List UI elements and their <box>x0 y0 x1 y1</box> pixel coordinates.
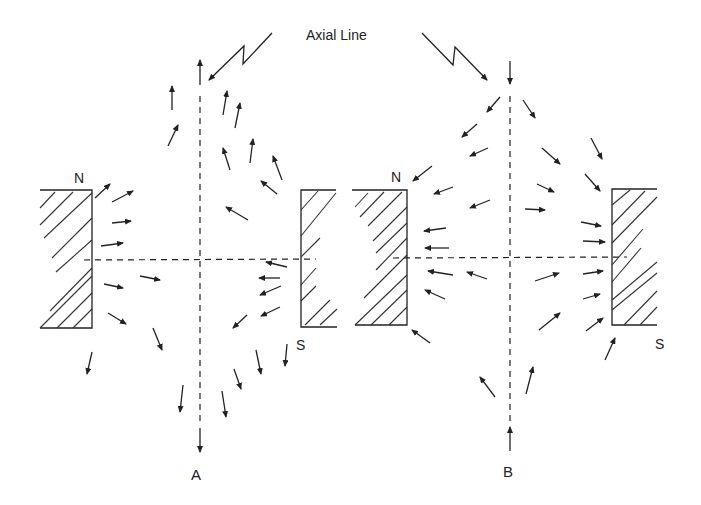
field-arrow-icon <box>226 207 248 220</box>
field-arrow-icon <box>535 273 559 281</box>
field-arrow-icon <box>523 100 535 118</box>
axial-line-leader-b-icon <box>422 33 487 80</box>
field-arrow-icon <box>425 290 445 299</box>
field-arrow-icon <box>480 377 495 397</box>
field-arrow-icon <box>583 241 605 242</box>
field-arrow-icon <box>223 91 227 115</box>
field-arrow-icon <box>250 139 253 163</box>
field-arrow-icon <box>542 148 560 164</box>
field-arrow-icon <box>266 262 287 267</box>
magnet-a-north <box>40 190 92 328</box>
field-arrow-icon <box>428 271 453 275</box>
field-arrow-icon <box>591 138 602 159</box>
field-arrow-icon <box>233 315 247 328</box>
field-arrow-icon <box>234 369 241 389</box>
magnetic-field-diagram: Axial Line N <box>0 0 701 505</box>
field-arrow-icon <box>605 338 615 360</box>
field-arrow-icon <box>412 330 430 343</box>
field-arrow-icon <box>470 200 490 208</box>
field-arrow-icon <box>104 284 123 288</box>
field-arrow-icon <box>539 313 560 330</box>
field-arrow-icon <box>140 276 160 280</box>
field-arrow-icon <box>180 385 183 412</box>
field-arrow-icon <box>526 367 533 394</box>
field-arrow-icon <box>222 391 226 417</box>
horizontal-b-dashed-line <box>393 257 627 258</box>
field-arrow-icon <box>108 313 126 324</box>
field-arrow-icon <box>424 228 446 231</box>
field-arrow-icon <box>112 221 131 223</box>
field-arrow-icon <box>467 272 487 279</box>
magnet-b-south <box>612 189 657 325</box>
field-arrow-icon <box>537 184 554 192</box>
field-arrow-icon <box>583 294 600 299</box>
field-arrow-icon <box>586 318 603 331</box>
field-arrow-icon <box>583 271 603 274</box>
field-arrow-icon <box>153 328 162 350</box>
label-b-north: N <box>391 169 401 185</box>
field-arrow-icon <box>261 307 280 316</box>
horizontal-a-dashed-line <box>84 259 316 260</box>
field-arrow-icon <box>235 103 240 128</box>
field-arrow-icon <box>285 344 287 366</box>
field-arrow-icon <box>87 352 92 374</box>
label-a-north: N <box>74 170 84 186</box>
field-arrows-b <box>412 97 615 397</box>
label-b-south: S <box>655 336 664 352</box>
panel-b: N S B <box>352 61 664 480</box>
field-arrow-icon <box>413 166 432 181</box>
field-arrow-icon <box>95 184 110 198</box>
field-arrow-icon <box>470 148 488 156</box>
field-arrows-a <box>87 86 287 417</box>
label-a-south: S <box>296 337 305 353</box>
label-panel-b: B <box>503 463 513 480</box>
field-arrow-icon <box>273 156 282 180</box>
axial-line-label: Axial Line <box>306 27 367 43</box>
field-arrow-icon <box>223 148 230 170</box>
axial-line-leader-a-icon <box>209 33 272 80</box>
label-panel-a: A <box>191 466 201 483</box>
panel-a: N S A <box>40 60 337 483</box>
field-arrow-icon <box>585 174 600 191</box>
field-arrow-icon <box>261 181 277 194</box>
field-arrow-icon <box>168 125 178 146</box>
field-arrow-icon <box>260 286 281 295</box>
field-arrow-icon <box>434 187 453 194</box>
field-arrow-icon <box>487 97 500 112</box>
field-arrow-icon <box>462 124 477 137</box>
field-arrow-icon <box>581 222 601 226</box>
field-arrow-icon <box>525 209 545 210</box>
field-arrow-icon <box>112 191 133 202</box>
field-arrow-icon <box>256 350 261 374</box>
field-arrow-icon <box>101 243 123 246</box>
